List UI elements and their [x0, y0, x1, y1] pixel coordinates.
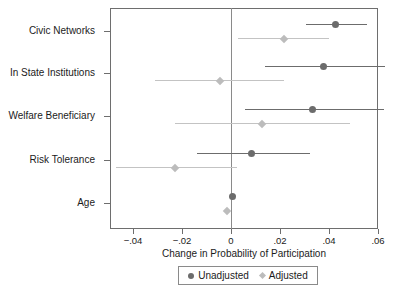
coefficient-plot-figure: Civic NetworksIn State InstitutionsWelfa… [0, 0, 397, 291]
x-axis-tick-label: .02 [260, 235, 300, 246]
y-axis-label: In State Institutions [10, 67, 95, 78]
y-axis-tick [104, 203, 110, 204]
x-axis-tick [133, 229, 134, 234]
y-axis-label: Risk Tolerance [30, 154, 95, 165]
legend-circle-icon [188, 273, 194, 279]
x-axis-tick-label: .04 [309, 235, 349, 246]
y-axis-tick [104, 31, 110, 32]
y-axis-tick [104, 116, 110, 117]
x-axis-tick [378, 229, 379, 234]
point-estimate-circle [332, 21, 339, 28]
legend-entry-unadjusted: Unadjusted [188, 270, 249, 281]
y-axis-label: Welfare Beneficiary [8, 110, 95, 121]
y-axis-tick [104, 73, 110, 74]
x-axis-tick-label: 0 [211, 235, 251, 246]
legend-label-unadjusted: Unadjusted [198, 270, 249, 281]
legend: Unadjusted Adjusted [178, 266, 318, 285]
x-axis-title: Change in Probability of Participation [110, 248, 378, 259]
legend-diamond-icon [259, 272, 266, 279]
legend-label-adjusted: Adjusted [269, 270, 308, 281]
x-axis-tick [280, 229, 281, 234]
y-axis-label: Civic Networks [29, 25, 95, 36]
x-axis-tick-label: −.04 [113, 235, 153, 246]
x-axis-tick-label: .06 [358, 235, 397, 246]
legend-entry-adjusted: Adjusted [260, 270, 308, 281]
x-axis-tick [182, 229, 183, 234]
point-estimate-circle [320, 63, 327, 70]
x-axis-tick [231, 229, 232, 234]
x-axis-tick-label: −.02 [162, 235, 202, 246]
y-axis-label: Age [77, 197, 95, 208]
x-axis-tick [329, 229, 330, 234]
plot-area [110, 8, 378, 229]
y-axis-tick [104, 160, 110, 161]
